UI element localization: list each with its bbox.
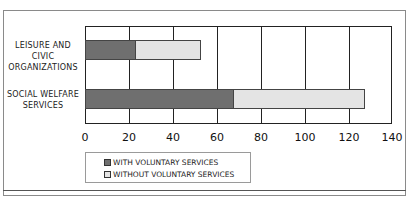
legend-swatch-light-icon xyxy=(104,171,111,178)
gridline-80 xyxy=(261,26,262,124)
legend-item-with: WITH VOLUNTARY SERVICES xyxy=(104,158,218,167)
gridline-120 xyxy=(349,26,350,124)
x-tick: 120 xyxy=(334,131,364,144)
legend-item-without: WITHOUT VOLUNTARY SERVICES xyxy=(104,170,234,179)
x-tick: 80 xyxy=(246,131,276,144)
gridline-60 xyxy=(217,26,218,124)
legend-swatch-dark-icon xyxy=(104,159,111,166)
category-label-leisure: LEISURE AND CIVIC ORGANIZATIONS xyxy=(3,40,83,73)
category-label-social: SOCIAL WELFARE SERVICES xyxy=(3,89,83,111)
legend-label: WITH VOLUNTARY SERVICES xyxy=(113,158,218,167)
gridline-100 xyxy=(305,26,306,124)
divider xyxy=(3,190,406,191)
bar-leisure-with xyxy=(85,40,136,60)
category-label-line: LEISURE AND CIVIC xyxy=(3,40,83,62)
x-tick: 0 xyxy=(70,131,100,144)
category-label-line: SOCIAL WELFARE xyxy=(3,89,83,100)
bar-leisure-without xyxy=(135,40,201,60)
legend: WITH VOLUNTARY SERVICES WITHOUT VOLUNTAR… xyxy=(85,152,251,183)
x-tick: 20 xyxy=(114,131,144,144)
bar-social-without xyxy=(233,89,365,109)
legend-label: WITHOUT VOLUNTARY SERVICES xyxy=(113,170,234,179)
category-label-line: ORGANIZATIONS xyxy=(3,62,83,73)
bar-social-with xyxy=(85,89,234,109)
x-tick: 100 xyxy=(290,131,320,144)
category-label-line: SERVICES xyxy=(3,100,83,111)
x-tick: 40 xyxy=(158,131,188,144)
x-tick: 140 xyxy=(377,131,407,144)
x-tick: 60 xyxy=(202,131,232,144)
